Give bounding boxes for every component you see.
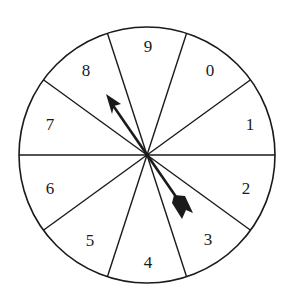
sector-label-7: 7 (46, 115, 55, 134)
spinner-pivot (145, 153, 149, 157)
sector-label-6: 6 (46, 179, 55, 198)
sector-label-8: 8 (82, 61, 91, 80)
sector-label-3: 3 (204, 230, 213, 249)
sector-label-1: 1 (246, 115, 255, 134)
spinner-diagram: 9 0 1 2 3 4 5 6 7 8 (0, 0, 290, 296)
sector-label-9: 9 (144, 37, 153, 56)
spinner-svg: 9 0 1 2 3 4 5 6 7 8 (0, 0, 290, 296)
sector-label-0: 0 (206, 61, 215, 80)
sector-label-2: 2 (242, 179, 251, 198)
sector-label-4: 4 (144, 253, 153, 272)
sector-label-5: 5 (86, 231, 95, 250)
